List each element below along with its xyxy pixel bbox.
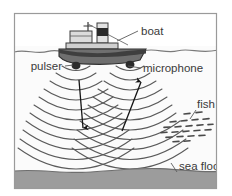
boat-deckhouse <box>66 43 118 49</box>
label-pulser: pulser <box>31 60 62 72</box>
echo-sounding-diagram: boat pulser microphone fish sea floor <box>0 0 232 196</box>
microphone-transducer <box>126 61 135 69</box>
label-boat: boat <box>141 25 164 37</box>
label-microphone: microphone <box>143 62 203 74</box>
boat-funnel-band <box>97 28 108 36</box>
boat-cabin <box>70 31 92 43</box>
illustration-body: boat pulser microphone fish sea floor <box>14 13 223 189</box>
figure-container: boat pulser microphone fish sea floor <box>0 0 232 196</box>
label-fish: fish <box>197 98 215 110</box>
pulser-transducer <box>72 62 81 70</box>
